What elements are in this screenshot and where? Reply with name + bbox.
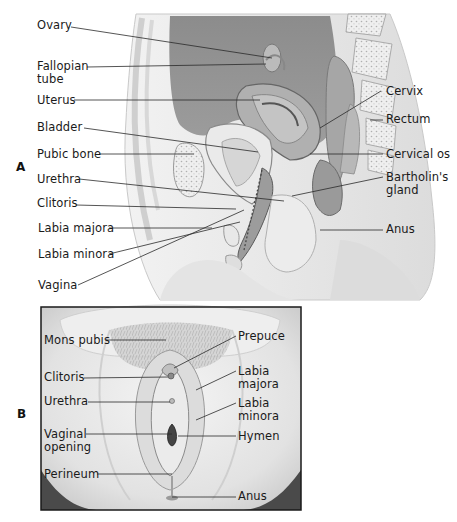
label-bartholins-gland-line1: Bartholin's bbox=[386, 170, 448, 184]
label-cervical-os: Cervical os bbox=[386, 148, 450, 161]
label-ovary: Ovary bbox=[37, 19, 72, 32]
panel-letter-a: A bbox=[16, 160, 25, 174]
label-labia-minora-b: Labia minora bbox=[238, 397, 279, 423]
label-cervix: Cervix bbox=[386, 85, 423, 98]
label-labia-majora-b-line1: Labia bbox=[238, 364, 270, 378]
panel-letter-b: B bbox=[17, 407, 26, 421]
label-labia-majora-b-line2: majora bbox=[238, 377, 279, 391]
label-vaginal-opening-line2: opening bbox=[44, 440, 91, 454]
label-prepuce: Prepuce bbox=[238, 330, 285, 343]
label-fallopian-tube: Fallopian tube bbox=[37, 60, 89, 86]
label-urethra-b: Urethra bbox=[44, 395, 88, 408]
label-labia-minora-b-line1: Labia bbox=[238, 396, 270, 410]
label-fallopian-tube-line1: Fallopian bbox=[37, 59, 89, 73]
anatomy-figure: A B Ovary Fallopian tube Uterus Bladder … bbox=[0, 0, 457, 522]
label-uterus: Uterus bbox=[37, 94, 76, 107]
label-hymen: Hymen bbox=[238, 430, 280, 443]
label-vagina: Vagina bbox=[38, 279, 77, 292]
label-vaginal-opening-line1: Vaginal bbox=[44, 427, 87, 441]
label-bartholins-gland: Bartholin's gland bbox=[386, 171, 448, 197]
label-labia-minora: Labia minora bbox=[38, 248, 114, 261]
label-clitoris-b: Clitoris bbox=[44, 371, 85, 384]
label-anus-a: Anus bbox=[386, 223, 415, 236]
label-rectum: Rectum bbox=[386, 113, 430, 126]
label-labia-majora-b: Labia majora bbox=[238, 365, 279, 391]
label-clitoris: Clitoris bbox=[37, 197, 78, 210]
label-labia-minora-b-line2: minora bbox=[238, 409, 279, 423]
label-mons-pubis: Mons pubis bbox=[44, 334, 110, 347]
label-labia-majora: Labia majora bbox=[38, 222, 114, 235]
label-anus-b: Anus bbox=[238, 490, 267, 503]
label-vaginal-opening: Vaginal opening bbox=[44, 428, 91, 454]
label-perineum: Perineum bbox=[44, 468, 99, 481]
label-fallopian-tube-line2: tube bbox=[37, 72, 64, 86]
label-bartholins-gland-line2: gland bbox=[386, 183, 419, 197]
label-pubic-bone: Pubic bone bbox=[37, 148, 101, 161]
label-bladder: Bladder bbox=[37, 121, 82, 134]
label-urethra: Urethra bbox=[37, 173, 81, 186]
